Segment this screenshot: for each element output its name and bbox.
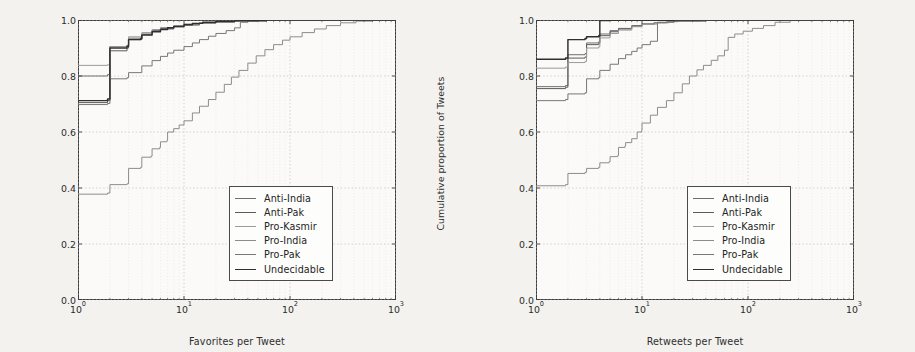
legend-swatch-icon [235,254,256,255]
y-tick-1: 0.2 [474,239,534,250]
legend-swatch-icon [235,226,256,227]
legend-swatch-icon [693,198,714,199]
legend-item-pro-kasmir: Pro-Kasmir [693,219,783,233]
legend-item-pro-india: Pro-India [235,234,325,248]
legend-swatch-icon [693,212,714,213]
legend-label: Undecidable [264,264,325,275]
chart-panel-favorites: Cumulative proportion of Tweets Favorite… [0,0,457,352]
y-tick-0: 0.0 [474,295,534,306]
legend-item-pro-pak: Pro-Pak [235,248,325,262]
x-tick-2: 102 [282,303,298,315]
legend-item-pro-pak: Pro-Pak [693,248,783,262]
legend-label: Anti-Pak [264,207,304,218]
series-line-undecidable [536,20,854,59]
legend-item-undecidable: Undecidable [235,262,325,276]
series-line-undecidable [78,20,396,101]
legend-swatch-icon [235,240,256,241]
series-group [536,20,854,186]
x-axis-label-right: Retweets per Tweet [536,336,854,347]
plot-area-favorites: Cumulative proportion of Tweets Favorite… [78,20,396,300]
series-line-anti-india [536,20,854,87]
y-tick-3: 0.6 [16,127,76,138]
y-tick-0: 0.0 [16,295,76,306]
legend-label: Undecidable [722,264,783,275]
series-line-pro-pak [536,20,854,101]
y-tick-2: 0.4 [16,183,76,194]
x-tick-3: 103 [846,303,862,315]
series-line-pro-pak [78,20,396,105]
legend-label: Pro-India [722,235,765,246]
y-axis-label-right: Cumulative proportion of Tweets [435,14,446,294]
legend-item-anti-india: Anti-India [235,191,325,205]
legend-label: Pro-Pak [264,249,300,260]
legend-label: Pro-Pak [722,249,758,260]
series-line-anti-pak [78,20,396,103]
y-tick-2: 0.4 [474,183,534,194]
legend-label: Pro-India [264,235,307,246]
legend-label: Anti-Pak [722,207,762,218]
x-tick-0: 100 [528,303,544,315]
legend-swatch-icon [235,198,256,199]
y-tick-1: 0.2 [16,239,76,250]
series-line-pro-kasmir [78,20,396,65]
plot-area-retweets: Cumulative proportion of Tweets Retweets… [536,20,854,300]
series-line-pro-india [536,20,854,186]
legend-item-undecidable: Undecidable [693,262,783,276]
legend-swatch-icon [235,269,256,270]
chart-panel-retweets: Cumulative proportion of Tweets Retweets… [458,0,915,352]
legend-item-anti-pak: Anti-Pak [235,205,325,219]
legend-favorites: Anti-IndiaAnti-PakPro-KasmirPro-IndiaPro… [229,186,333,281]
y-tick-3: 0.6 [474,127,534,138]
legend-label: Pro-Kasmir [722,221,775,232]
legend-item-pro-kasmir: Pro-Kasmir [235,219,325,233]
legend-item-anti-india: Anti-India [693,191,783,205]
legend-label: Pro-Kasmir [264,221,317,232]
x-tick-0: 100 [70,303,86,315]
legend-item-pro-india: Pro-India [693,234,783,248]
y-tick-4: 0.8 [16,71,76,82]
x-tick-1: 101 [176,303,192,315]
legend-retweets: Anti-IndiaAnti-PakPro-KasmirPro-IndiaPro… [687,186,791,281]
x-tick-3: 103 [388,303,404,315]
legend-swatch-icon [235,212,256,213]
y-tick-4: 0.8 [474,71,534,82]
x-axis-label-left: Favorites per Tweet [78,336,396,347]
legend-item-anti-pak: Anti-Pak [693,205,783,219]
series-group [78,20,396,194]
x-tick-2: 102 [740,303,756,315]
legend-label: Anti-India [264,193,311,204]
x-tick-1: 101 [634,303,650,315]
legend-swatch-icon [693,269,714,270]
y-tick-5: 1.0 [16,15,76,26]
legend-label: Anti-India [722,193,769,204]
y-tick-5: 1.0 [474,15,534,26]
legend-swatch-icon [693,240,714,241]
legend-swatch-icon [693,226,714,227]
series-line-pro-kasmir [536,20,854,68]
figure-page: Cumulative proportion of Tweets Favorite… [0,0,915,352]
legend-swatch-icon [693,254,714,255]
